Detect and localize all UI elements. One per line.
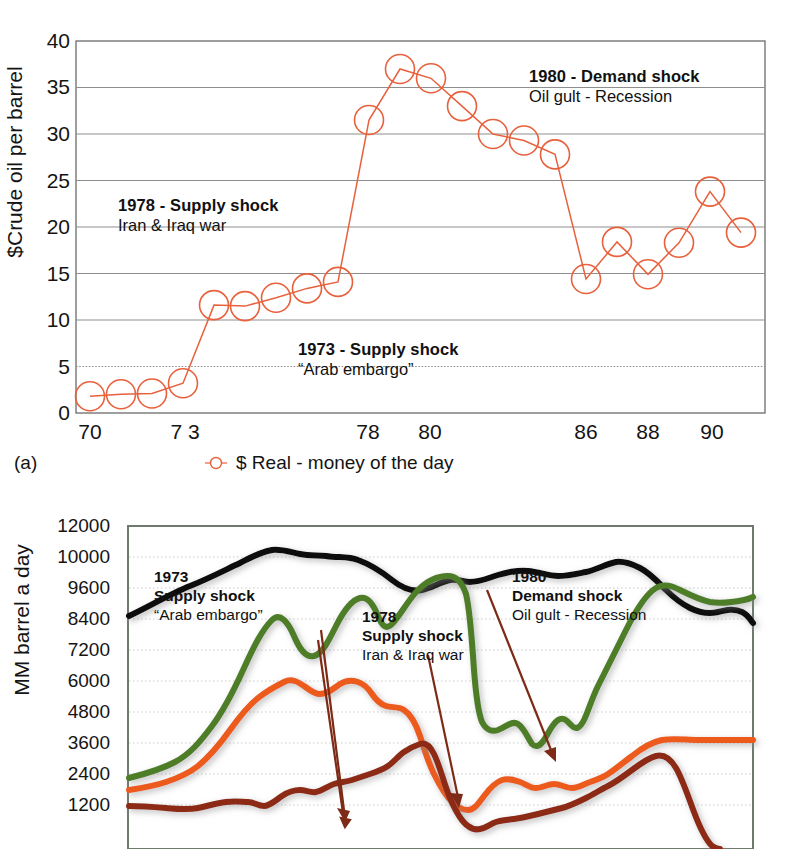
- panel-b-annotation-1973-subtitle: “Arab embargo”: [154, 606, 263, 624]
- panel-a-annotation-1980-title: 1980 - Demand shock: [529, 67, 700, 86]
- panel-a-xtick-90: 90: [700, 420, 723, 444]
- panel-a-annotation-1980: 1980 - Demand shock Oil gult - Recession: [529, 67, 700, 106]
- panel-a-xtick-80: 80: [418, 420, 441, 444]
- panel-a-annotation-1980-subtitle: Oil gult - Recession: [529, 87, 700, 106]
- panel-b-annotation-1978-title: Supply shock: [362, 627, 464, 645]
- panel-b-annotation-1978: 1978 Supply shock Iran & Iraq war: [362, 608, 464, 664]
- panel-a-annotation-1978-subtitle: Iran & Iraq war: [118, 216, 279, 235]
- panel-a-legend-label: $ Real - money of the day: [236, 452, 454, 474]
- panel-b-annotation-1980-title: Demand shock: [512, 587, 646, 605]
- panel-a-annotation-1973: 1973 - Supply shock “Arab embargo”: [298, 340, 459, 379]
- panel-b-production-chart: MM barrel a day 12000 10000 9600 8400 72…: [0, 490, 789, 849]
- legend-open-circle-icon: [205, 455, 227, 471]
- panel-a-annotation-1973-title: 1973 - Supply shock: [298, 340, 459, 359]
- panel-a-xtick-88: 88: [636, 420, 659, 444]
- panel-b-annotation-1980-subtitle: Oil gult - Recession: [512, 606, 646, 624]
- figure-page: $Crude oil per barrel 40 35 30 25 20 15 …: [0, 0, 789, 849]
- panel-b-annotation-1973-year: 1973: [154, 568, 263, 586]
- panel-a-xtick-78: 78: [356, 420, 379, 444]
- panel-b-annotation-1973: 1973 Supply shock “Arab embargo”: [154, 568, 263, 624]
- panel-a-x-axis: 70 7 3 78 80 86 88 90: [0, 420, 789, 450]
- panel-b-annotation-1980-year: 1980: [512, 568, 646, 586]
- panel-b-annotation-1978-subtitle: Iran & Iraq war: [362, 646, 464, 664]
- panel-a-legend: $ Real - money of the day: [205, 452, 454, 474]
- panel-a-xtick-86: 86: [574, 420, 597, 444]
- panel-b-annotation-1980: 1980 Demand shock Oil gult - Recession: [512, 568, 646, 624]
- panel-b-annotation-1978-year: 1978: [362, 608, 464, 626]
- panel-a-annotation-1973-subtitle: “Arab embargo”: [298, 360, 459, 379]
- panel-a-xtick-70: 70: [78, 420, 101, 444]
- panel-a-xtick-73: 7 3: [170, 420, 199, 444]
- panel-a-crude-oil-price-chart: $Crude oil per barrel 40 35 30 25 20 15 …: [0, 0, 789, 490]
- panel-a-annotation-1978-title: 1978 - Supply shock: [118, 196, 279, 215]
- panel-b-plot: [0, 490, 789, 849]
- panel-a-annotation-1978: 1978 - Supply shock Iran & Iraq war: [118, 196, 279, 235]
- panel-b-annotation-1973-title: Supply shock: [154, 587, 263, 605]
